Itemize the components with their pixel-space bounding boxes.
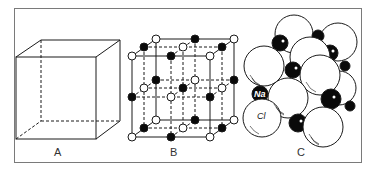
panel-b-label: B bbox=[170, 146, 177, 158]
panel-c-packing bbox=[243, 15, 357, 147]
panel-c-label: C bbox=[297, 146, 305, 158]
panel-a-label: A bbox=[54, 146, 61, 158]
sodium-label: Na bbox=[254, 89, 266, 99]
panel-b-lattice bbox=[128, 35, 238, 141]
chlorine-label: Cl bbox=[257, 111, 266, 121]
panel-a-cube bbox=[16, 40, 120, 139]
